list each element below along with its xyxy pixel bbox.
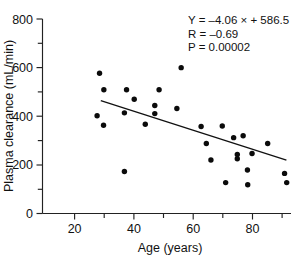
scatter-point xyxy=(235,156,240,161)
scatter-point xyxy=(124,87,129,92)
y-tick-label-0: 0 xyxy=(26,207,33,221)
x-tick-label-60: 60 xyxy=(186,222,200,236)
scatter-point xyxy=(152,103,157,108)
y-axis-major-ticks xyxy=(37,19,43,214)
y-axis-title: Plasma clearance (mL/min) xyxy=(2,40,16,192)
scatter-point xyxy=(198,124,203,129)
scatter-point xyxy=(204,141,209,146)
scatter-point xyxy=(249,151,254,156)
y-tick-label-800: 800 xyxy=(12,13,33,27)
scatter-point xyxy=(152,111,157,116)
scatter-point xyxy=(143,122,148,127)
scatter-point xyxy=(101,123,106,128)
scatter-point xyxy=(174,106,179,111)
annotation-pvalue: P = 0.00002 xyxy=(188,41,250,53)
annotation-equation: Y = –4.06 × + 586.5 xyxy=(188,14,289,26)
scatter-point xyxy=(178,65,183,70)
scatter-point xyxy=(94,113,99,118)
scatter-point xyxy=(223,180,228,185)
x-axis-title: Age (years) xyxy=(138,241,203,255)
scatter-point xyxy=(245,182,250,187)
x-tick-label-20: 20 xyxy=(68,222,82,236)
scatter-point xyxy=(240,133,245,138)
scatter-point xyxy=(284,180,289,185)
scatter-point xyxy=(245,167,250,172)
figure-container: 0 200 400 600 800 20 40 60 80 Age (years… xyxy=(0,0,306,260)
scatter-point xyxy=(132,97,137,102)
scatter-point xyxy=(97,71,102,76)
scatter-point xyxy=(156,87,161,92)
scatter-points-group xyxy=(94,65,289,188)
scatter-plot: 0 200 400 600 800 20 40 60 80 Age (years… xyxy=(0,0,306,260)
x-tick-label-40: 40 xyxy=(127,222,141,236)
x-tick-label-80: 80 xyxy=(246,222,260,236)
scatter-point xyxy=(122,110,127,115)
scatter-point xyxy=(122,169,127,174)
annotation-correlation: R = –0.69 xyxy=(188,28,238,40)
scatter-point xyxy=(220,123,225,128)
scatter-point xyxy=(208,157,213,162)
regression-line xyxy=(101,101,287,161)
scatter-point xyxy=(282,171,287,176)
scatter-point xyxy=(231,135,236,140)
scatter-point xyxy=(265,141,270,146)
scatter-point xyxy=(101,87,106,92)
